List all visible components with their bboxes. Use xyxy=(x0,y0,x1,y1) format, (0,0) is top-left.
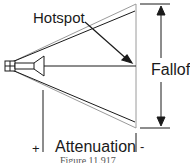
attenuation-plus-label: + xyxy=(32,142,40,155)
spotlight-icon xyxy=(5,56,44,76)
spotlight-diagram: Hotspot Falloff + Attenuation - Figure 1… xyxy=(0,0,190,163)
figure-caption: Figure 11.917 xyxy=(60,156,116,163)
hotspot-label: Hotspot xyxy=(33,10,85,25)
falloff-label: Falloff xyxy=(151,62,190,78)
attenuation-minus-label: - xyxy=(140,140,144,153)
hotspot-arrow xyxy=(85,22,132,63)
attenuation-label: Attenuation xyxy=(55,139,136,155)
